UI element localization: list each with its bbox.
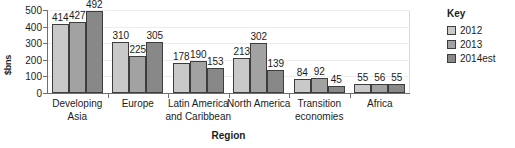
y-axis-tick-label: 100 — [14, 71, 42, 82]
legend-item-label: 2014est — [460, 53, 496, 64]
bar — [371, 84, 388, 93]
bar — [69, 22, 86, 93]
y-axis-line — [47, 10, 48, 94]
bar-value-label: 178 — [173, 52, 190, 62]
bar-group: 310225305 — [112, 10, 163, 93]
x-axis-title: Region — [47, 130, 410, 141]
bar — [328, 86, 345, 93]
legend-item-label: 2013 — [460, 39, 482, 50]
bar-value-label: 414 — [52, 13, 69, 23]
legend-swatch-icon — [447, 40, 456, 49]
bar — [129, 56, 146, 93]
legend-rows: 201220132014est — [447, 23, 513, 65]
y-axis-tick-label: 0 — [14, 88, 42, 99]
bar — [250, 43, 267, 93]
y-axis-tickmark — [43, 60, 47, 61]
legend-title: Key — [447, 8, 513, 19]
bar-group: 178190153 — [173, 10, 224, 93]
y-axis-tick-label: 300 — [14, 38, 42, 49]
bar-value-label: 56 — [374, 73, 385, 83]
legend-item-2012[interactable]: 2012 — [447, 23, 513, 37]
y-axis-tick-label: 200 — [14, 54, 42, 65]
bar — [173, 63, 190, 93]
y-axis-tick-label: 400 — [14, 21, 42, 32]
bar — [112, 42, 129, 93]
bar-value-label: 190 — [190, 50, 207, 60]
x-axis-category-label-line: Africa — [325, 98, 435, 111]
legend: Key 201220132014est — [447, 8, 513, 65]
legend-swatch-icon — [447, 54, 456, 63]
legend-swatch-icon — [447, 26, 456, 35]
bar-group: 555655 — [354, 10, 405, 93]
bar-value-label: 153 — [207, 57, 224, 67]
bar-value-label: 55 — [391, 73, 402, 83]
bar — [354, 84, 371, 93]
bar — [86, 11, 103, 93]
legend-item-2013[interactable]: 2013 — [447, 37, 513, 51]
y-axis-tickmark — [43, 43, 47, 44]
bar — [388, 84, 405, 93]
bar-value-label: 427 — [69, 11, 86, 21]
bar-chart-figure: $bns 0100200300400500 414427492310225305… — [0, 0, 515, 148]
bar — [207, 68, 224, 93]
bar — [52, 24, 69, 93]
bar-group: 414427492 — [52, 10, 103, 93]
legend-item-2014est[interactable]: 2014est — [447, 51, 513, 65]
bar — [233, 58, 250, 93]
legend-item-label: 2012 — [460, 25, 482, 36]
y-axis-tick-labels: 0100200300400500 — [14, 10, 42, 94]
bar-group: 849245 — [294, 10, 345, 93]
bar-value-label: 213 — [233, 47, 250, 57]
y-axis-tickmark — [43, 27, 47, 28]
bar-value-label: 492 — [86, 0, 103, 10]
y-axis-tickmark — [43, 10, 47, 11]
x-axis-category-label-line: economies — [264, 111, 374, 124]
bar-value-label: 55 — [357, 73, 368, 83]
y-axis-tickmark — [43, 76, 47, 77]
bar-value-label: 302 — [250, 32, 267, 42]
y-axis-tick-label: 500 — [14, 5, 42, 16]
bar-value-label: 92 — [314, 67, 325, 77]
bar-value-label: 45 — [331, 75, 342, 85]
bar-value-label: 310 — [112, 31, 129, 41]
y-axis-tickmark — [43, 93, 47, 94]
y-axis-title-text: $bns — [3, 55, 13, 75]
bar — [146, 42, 163, 93]
bar — [311, 78, 328, 93]
bar — [294, 79, 311, 93]
bar-value-label: 225 — [129, 45, 146, 55]
bar-group: 213302139 — [233, 10, 284, 93]
bar — [267, 70, 284, 93]
bar-value-label: 84 — [297, 68, 308, 78]
x-axis-category-label: Africa — [325, 98, 435, 111]
x-axis-category-label-line: and Caribbean — [143, 111, 253, 124]
x-axis-category-label-line: Asia — [22, 111, 132, 124]
plot-area: 4144274923102253051781901532133021398492… — [47, 10, 410, 94]
bar-value-label: 305 — [146, 31, 163, 41]
bar — [190, 61, 207, 93]
bar-value-label: 139 — [267, 59, 284, 69]
